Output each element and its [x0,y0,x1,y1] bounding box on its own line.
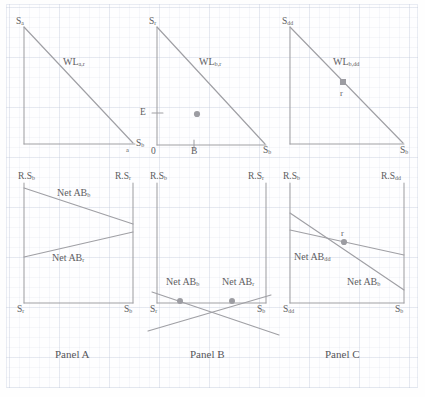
top-right-y-axis-label: Sdd [282,17,293,27]
top-middle-welfare-line [157,27,265,144]
bottom-middle-x-start-label: Sr [150,305,157,315]
top-middle-x-tick-label-B: B [191,147,197,157]
panel-c-caption: Panel C [325,349,360,360]
bottom-left-x-end-label: Sb [124,305,132,315]
bottom-middle-net-ab-r-label: Net ABr [222,277,254,288]
top-middle-curve-label: WLb,r [199,57,221,68]
bottom-right-top-right-label: R.Sdd [381,172,401,182]
top-left-welfare-line [24,27,133,143]
bottom-right-top-left-label: R.Sb [283,172,300,182]
bottom-left-axes [24,183,133,303]
bottom-middle-net-ab-b-label: Net ABb [166,277,199,288]
top-right-point-r-label: r [340,89,343,98]
panel-a-caption: Panel A [55,349,90,360]
bottom-right-x-end-label: Sb [395,305,403,315]
bottom-left-net-ab-r-label: Net ABr [52,253,84,264]
bottom-middle-x-end-label: Sb [257,305,265,315]
bottom-middle-dot-right [229,298,235,304]
top-middle-origin-label: 0 [151,147,156,157]
bottom-left-top-left-label: R.Sb [18,172,35,182]
top-middle-y-axis-label: Sr [149,17,156,27]
top-left-curve-label: WLa,r [63,57,85,68]
top-left-y-axis-label: Sa [16,17,24,27]
top-right-curve-label: WLb,dd [333,57,359,68]
bottom-right-net-ab-dd-label: Net ABdd [294,252,330,263]
top-left-x-axis-label: Sb [136,139,144,149]
bottom-right-point-r-label: r [341,229,344,238]
bottom-middle-top-left-label: R.Sb [150,172,167,182]
panel-b-caption: Panel B [190,349,225,360]
bottom-middle-top-right-label: R.Sr [248,172,264,182]
figure-container: Sa WLa,r Sb a Sr WLb,r E 0 B Sb Sdd WLb,… [0,0,425,397]
bottom-middle-dot-left [177,298,183,304]
point-r-marker-top [340,79,346,85]
equilibrium-dot [194,111,200,117]
top-middle-y-tick-label-E: E [140,108,146,118]
top-middle-x-axis-label: Sb [263,146,271,156]
bottom-right-x-start-label: Sdd [283,305,294,315]
top-right-welfare-line [290,27,403,143]
point-r-marker-bottom [341,239,347,245]
bottom-right-net-ab-b-label: Net ABb [347,277,380,288]
bottom-left-top-right-label: R.Sr [115,172,131,182]
bottom-left-x-start-label: Sr [17,305,24,315]
top-left-corner-small-label: a [126,147,129,154]
top-right-x-axis-label: Sb [400,146,408,156]
bottom-left-net-ab-b-label: Net ABb [57,188,90,199]
